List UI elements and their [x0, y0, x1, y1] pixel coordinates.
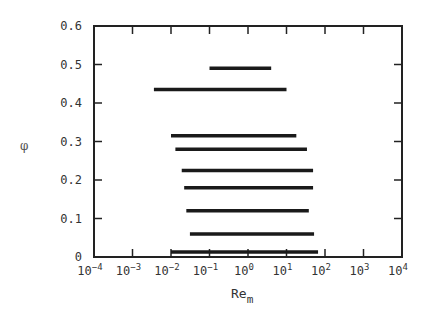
x-axis-ticks: 10−410−310−210−1100101102103104: [77, 26, 408, 278]
y-tick-label: 0.3: [60, 135, 82, 149]
x-tick-label: 104: [388, 262, 408, 278]
x-axis-label: Rem: [231, 286, 253, 306]
y-tick-label: 0.5: [60, 58, 82, 72]
x-tick-label: 10−2: [154, 262, 179, 278]
y-tick-label: 0: [75, 250, 82, 264]
x-tick-label: 100: [234, 262, 254, 278]
y-tick-label: 0.6: [60, 19, 82, 33]
x-tick-label: 10−4: [77, 262, 102, 278]
plot-frame: [94, 26, 402, 257]
range-bar-chart: 00.10.20.30.40.50.6 10−410−310−210−11001…: [0, 0, 426, 320]
y-tick-label: 0.4: [60, 96, 82, 110]
y-axis-label: φ: [20, 139, 28, 153]
x-tick-label: 103: [350, 262, 370, 278]
x-tick-label: 10−1: [193, 262, 218, 278]
x-axis-label-sub: m: [247, 293, 254, 306]
range-bars: [154, 68, 318, 252]
x-tick-label: 102: [311, 262, 331, 278]
y-tick-label: 0.2: [60, 173, 82, 187]
x-tick-label: 10−3: [116, 262, 141, 278]
x-axis-label-main: Re: [231, 286, 247, 301]
y-tick-label: 0.1: [60, 212, 82, 226]
x-tick-label: 101: [273, 262, 293, 278]
y-axis-ticks: 00.10.20.30.40.50.6: [60, 19, 402, 264]
